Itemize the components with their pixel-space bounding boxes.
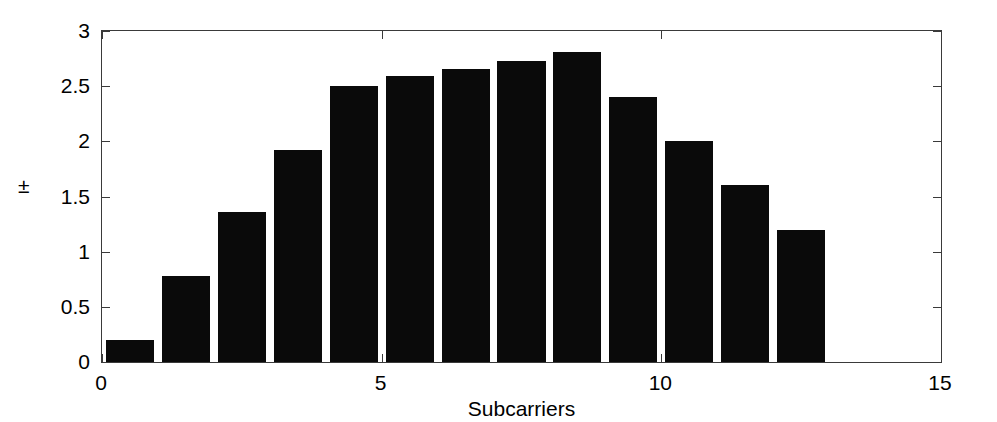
y-axis-tick-label: 2 xyxy=(78,130,90,151)
x-axis-tick xyxy=(661,354,662,363)
bars-layer xyxy=(102,31,941,362)
y-axis-tick-labels: 00.511.522.53 xyxy=(0,30,90,363)
y-axis-tick-right xyxy=(933,197,942,198)
bar xyxy=(386,76,434,362)
y-axis-tick-label: 1.5 xyxy=(61,185,90,206)
y-axis-tick-label: 0.5 xyxy=(61,295,90,316)
bar xyxy=(609,97,657,362)
y-axis-tick xyxy=(101,86,110,87)
x-axis-tick xyxy=(382,354,383,363)
x-axis-tick-label: 15 xyxy=(928,372,951,393)
x-axis-tick xyxy=(941,354,942,363)
y-axis-tick xyxy=(101,252,110,253)
bar xyxy=(497,61,545,362)
bar xyxy=(553,52,601,362)
plot-area xyxy=(101,30,942,363)
bar xyxy=(218,212,266,362)
x-axis-tick-label: 5 xyxy=(375,372,387,393)
x-axis-tick-label: 0 xyxy=(95,372,107,393)
x-axis-tick xyxy=(102,354,103,363)
bar-chart-figure: 00.511.522.53 ± 051015 Subcarriers xyxy=(0,0,997,422)
bar xyxy=(442,69,490,362)
bar xyxy=(721,185,769,362)
bar xyxy=(777,230,825,362)
y-axis-tick-right xyxy=(933,141,942,142)
y-axis-tick-label: 3 xyxy=(78,20,90,41)
bar xyxy=(162,276,210,362)
y-axis-tick-label: 2.5 xyxy=(61,75,90,96)
y-axis-tick xyxy=(101,141,110,142)
x-axis-tick-top xyxy=(941,30,942,39)
x-axis-tick-label: 10 xyxy=(649,372,672,393)
y-axis-tick-label: 1 xyxy=(78,240,90,261)
bar xyxy=(106,340,154,362)
bar xyxy=(330,86,378,362)
bar xyxy=(274,150,322,362)
bar xyxy=(665,141,713,362)
y-axis-tick-right xyxy=(933,86,942,87)
x-axis-tick-labels: 051015 xyxy=(101,372,942,400)
x-axis-tick-top xyxy=(102,30,103,39)
x-axis-tick-top xyxy=(661,30,662,39)
y-axis-tick-label: 0 xyxy=(78,351,90,372)
y-axis-tick xyxy=(101,307,110,308)
x-axis-tick-top xyxy=(382,30,383,39)
y-axis-tick xyxy=(101,197,110,198)
y-axis-label: ± xyxy=(18,175,30,196)
x-axis-label: Subcarriers xyxy=(101,398,942,419)
y-axis-tick-right xyxy=(933,252,942,253)
y-axis-tick-right xyxy=(933,307,942,308)
